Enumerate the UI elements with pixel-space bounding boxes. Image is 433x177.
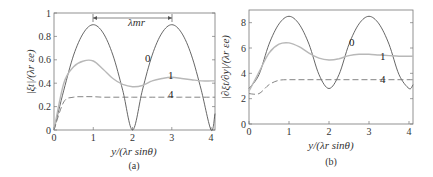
x-axis-label-b: y/(λr sinθ) xyxy=(307,139,354,152)
series-group-a xyxy=(54,25,215,131)
plot-frame-b xyxy=(249,10,413,124)
figure: 0123400.20.40.60.81 λmr 0 1 4 y/(λr sinθ… xyxy=(0,0,433,177)
y-axis-label-a: |ξt|/(λr εe) xyxy=(24,49,37,95)
wavelength-annotation: λmr xyxy=(93,14,172,28)
x-tick-label: 3 xyxy=(169,132,174,143)
y-tick-label: 0.6 xyxy=(39,54,52,65)
y-tick-label: 0 xyxy=(46,125,51,136)
x-axis-label-a: y/(λr sinθ) xyxy=(110,145,157,158)
series-line-4 xyxy=(54,97,215,130)
annotation-label: λmr xyxy=(127,16,146,28)
curve-label-0: 0 xyxy=(349,36,355,48)
axes-a: 0123400.20.40.60.81 xyxy=(39,8,216,144)
x-tick-label: 2 xyxy=(130,132,135,143)
y-tick-label: 4 xyxy=(241,68,246,79)
curve-label-4: 4 xyxy=(380,73,386,85)
x-tick-label: 2 xyxy=(327,126,332,137)
curve-label-1: 1 xyxy=(168,69,174,81)
x-tick-label: 4 xyxy=(209,132,214,143)
y-tick-label: 2 xyxy=(241,93,246,104)
x-tick-label: 0 xyxy=(52,132,57,143)
x-tick-label: 1 xyxy=(91,132,96,143)
plot-frame-a xyxy=(54,13,215,130)
series-line-1 xyxy=(249,43,413,91)
y-tick-label: 0.4 xyxy=(39,78,52,89)
x-tick-label: 1 xyxy=(287,126,292,137)
x-tick-label: 3 xyxy=(367,126,372,137)
y-tick-label: 1 xyxy=(46,8,51,19)
x-tick-label: 0 xyxy=(247,126,252,137)
x-tick-label: 4 xyxy=(407,126,412,137)
y-tick-label: 8 xyxy=(241,17,246,28)
y-tick-label: 6 xyxy=(241,43,246,54)
chart-panel-a: 0123400.20.40.60.81 λmr 0 1 4 y/(λr sinθ… xyxy=(24,8,215,173)
y-tick-label: 0.2 xyxy=(39,101,52,112)
curve-label-4: 4 xyxy=(168,88,174,100)
series-line-0 xyxy=(54,25,215,131)
series-line-0 xyxy=(249,16,413,89)
series-group-b xyxy=(249,16,413,94)
panel-caption-a: (a) xyxy=(128,160,139,172)
curve-label-0: 0 xyxy=(145,52,151,64)
y-tick-label: 0.8 xyxy=(39,31,52,42)
y-tick-label: 0 xyxy=(241,119,246,130)
curve-label-1: 1 xyxy=(380,50,386,62)
chart-panel-b: 0123402468 0 1 4 y/(λr sinθ) |∂ξt/∂y|/(λ… xyxy=(219,10,413,168)
panel-caption-b: (b) xyxy=(325,156,337,168)
y-axis-label-b: |∂ξt/∂y|/(λr εe) xyxy=(219,35,232,99)
series-line-4 xyxy=(249,80,413,95)
axes-b: 0123402468 xyxy=(241,17,413,137)
series-line-1 xyxy=(54,60,215,130)
